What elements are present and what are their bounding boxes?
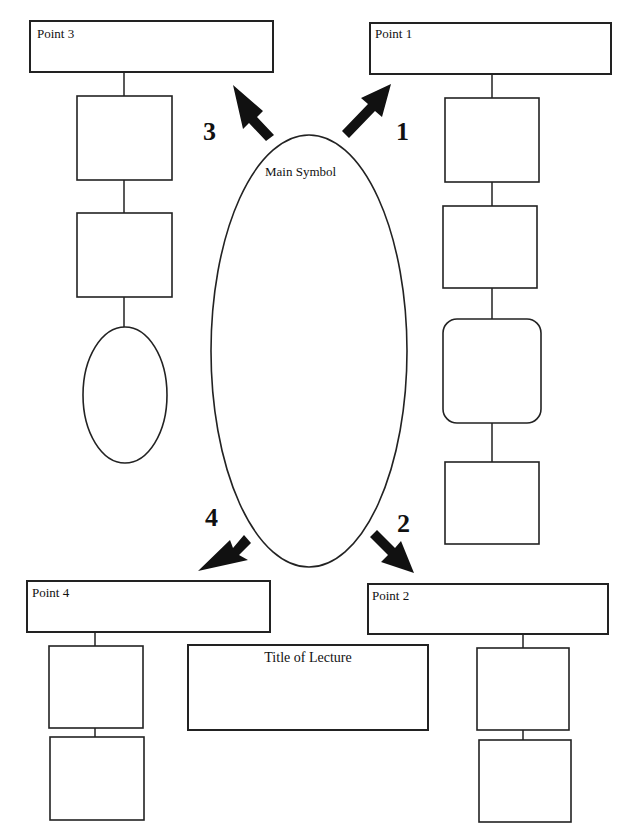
title-of-lecture-label: Title of Lecture (189, 650, 427, 666)
point4-sub-box-2 (50, 737, 144, 820)
number-4: 4 (205, 503, 218, 533)
point3-label: Point 3 (37, 26, 74, 42)
point1-sub-box-1 (445, 98, 539, 182)
point2-label: Point 2 (372, 588, 409, 604)
point3-sub-box-2 (77, 213, 172, 297)
arrow-up-right-icon (342, 84, 391, 138)
main-symbol-label: Main Symbol (265, 164, 336, 180)
direction-arrows (198, 84, 414, 573)
point1-sub-box-2 (443, 206, 537, 288)
point4-box: Point 4 (26, 580, 271, 633)
point3-box: Point 3 (29, 20, 274, 73)
point2-box: Point 2 (367, 583, 609, 635)
main-symbol-ellipse (211, 135, 407, 567)
point4-label: Point 4 (32, 585, 69, 601)
point1-label: Point 1 (375, 26, 412, 42)
arrow-up-left-icon (233, 85, 274, 141)
number-2: 2 (397, 509, 410, 539)
number-3: 3 (203, 117, 216, 147)
point1-sub-rounded-box (443, 319, 541, 423)
point4-sub-box-1 (49, 646, 143, 728)
title-of-lecture-box: Title of Lecture (187, 644, 429, 731)
point2-sub-box-2 (479, 740, 571, 822)
point3-sub-box-1 (77, 96, 172, 180)
arrow-down-left-icon (198, 535, 251, 571)
point1-sub-box-4 (445, 462, 539, 544)
point3-sub-ellipse (83, 327, 167, 463)
point2-sub-box-1 (477, 648, 569, 730)
point1-box: Point 1 (369, 22, 612, 75)
number-1: 1 (396, 117, 409, 147)
